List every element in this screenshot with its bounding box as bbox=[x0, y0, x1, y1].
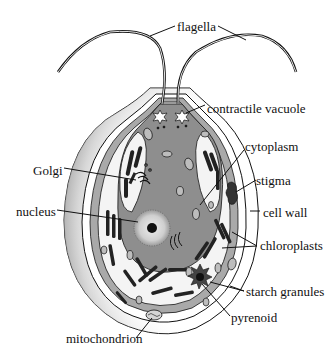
nucleolus bbox=[147, 223, 157, 233]
mitochondrion bbox=[146, 310, 162, 320]
label-nucleus: nucleus bbox=[16, 204, 56, 219]
label-starch-granules: starch granules bbox=[246, 284, 324, 299]
label-cell-wall: cell wall bbox=[263, 205, 308, 220]
label-golgi: Golgi bbox=[33, 163, 63, 178]
nucleus bbox=[134, 210, 170, 246]
label-cytoplasm: cytoplasm bbox=[245, 139, 298, 154]
label-flagella: flagella bbox=[177, 19, 216, 34]
flagella bbox=[58, 31, 296, 104]
label-stigma: stigma bbox=[256, 173, 291, 188]
chlamydomonas-diagram: flagella contractile vacuole cytoplasm G… bbox=[0, 0, 336, 360]
label-contractile-vacuole: contractile vacuole bbox=[207, 101, 306, 116]
label-mitochondrion: mitochondrion bbox=[66, 331, 143, 346]
label-chloroplasts: chloroplasts bbox=[260, 238, 323, 253]
label-pyrenoid: pyrenoid bbox=[231, 310, 278, 325]
